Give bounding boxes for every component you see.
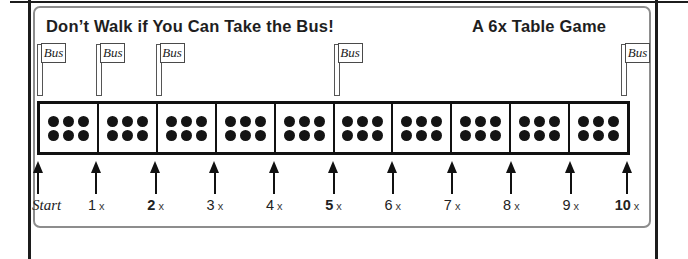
up-arrow-icon [209, 161, 219, 194]
up-arrow-icon [565, 161, 575, 194]
six-dot-array [48, 116, 89, 141]
dot [431, 116, 442, 127]
arrow-head [447, 161, 457, 173]
track-cell [335, 104, 394, 152]
bus-flag-label: Bus [338, 43, 363, 63]
dot [475, 116, 486, 127]
dot [608, 130, 619, 141]
page-border-left [28, 0, 31, 259]
page-border-top [10, 1, 688, 3]
arrow-shaft [626, 173, 628, 194]
up-arrow-icon [33, 161, 43, 194]
arrow-head [328, 161, 338, 173]
arrow-head [565, 161, 575, 173]
dot [490, 130, 501, 141]
stop-label: 9x [562, 197, 579, 213]
track-cell [393, 104, 452, 152]
arrow-shaft [392, 173, 394, 194]
stop-label: Start [32, 197, 64, 214]
dot [240, 116, 251, 127]
dot [460, 116, 471, 127]
dot [519, 116, 530, 127]
track-cell [570, 104, 627, 152]
arrow-shaft [273, 173, 275, 194]
dot [314, 130, 325, 141]
six-dot-array [578, 116, 619, 141]
dot [255, 130, 266, 141]
dot [372, 116, 383, 127]
dot [549, 130, 560, 141]
six-dot-array [107, 116, 148, 141]
dot [299, 116, 310, 127]
dot [401, 130, 412, 141]
track-cell [217, 104, 276, 152]
dot [534, 116, 545, 127]
stop-label: 10x [615, 197, 640, 213]
bus-flag-label: Bus [625, 43, 650, 63]
arrow-head [150, 161, 160, 173]
dot [107, 130, 118, 141]
dot [372, 130, 383, 141]
game-subtitle: A 6x Table Game [472, 17, 606, 36]
stop-label: 6x [385, 197, 402, 213]
dot [137, 116, 148, 127]
arrow-head [91, 161, 101, 173]
dot [196, 116, 207, 127]
dot [63, 116, 74, 127]
dot [401, 116, 412, 127]
dot [475, 130, 486, 141]
dot [357, 116, 368, 127]
dot [240, 130, 251, 141]
arrow-head [33, 161, 43, 173]
dot [225, 130, 236, 141]
up-arrow-icon [387, 161, 397, 194]
six-dot-array [166, 116, 207, 141]
stop-label: 2x [147, 197, 164, 213]
arrow-head [622, 161, 632, 173]
stop-label: 8x [503, 197, 520, 213]
dot [578, 130, 589, 141]
dot [534, 130, 545, 141]
dot [196, 130, 207, 141]
arrow-head [209, 161, 219, 173]
arrow-shaft [333, 173, 335, 194]
dot [107, 116, 118, 127]
stop-label: 1x [88, 197, 105, 213]
up-arrow-icon [622, 161, 632, 194]
stop-label: 5x [325, 197, 342, 213]
arrow-shaft [214, 173, 216, 194]
dot [255, 116, 266, 127]
up-arrow-icon [506, 161, 516, 194]
up-arrow-icon [150, 161, 160, 194]
track-cell [99, 104, 158, 152]
dot [78, 116, 89, 127]
arrow-shaft [95, 173, 97, 194]
arrow-head [387, 161, 397, 173]
dot [416, 116, 427, 127]
dot [181, 130, 192, 141]
dot [519, 130, 530, 141]
up-arrow-icon [269, 161, 279, 194]
dot [299, 130, 310, 141]
dot [48, 130, 59, 141]
arrow-head [269, 161, 279, 173]
up-arrow-icon [447, 161, 457, 194]
dot [578, 116, 589, 127]
dot [490, 116, 501, 127]
dot [314, 116, 325, 127]
dot [137, 130, 148, 141]
arrow-head [506, 161, 516, 173]
arrow-shaft [451, 173, 453, 194]
dot [284, 116, 295, 127]
track-cell [40, 104, 99, 152]
up-arrow-icon [328, 161, 338, 194]
dot [593, 130, 604, 141]
page-border-right [655, 0, 658, 259]
stop-label: 7x [444, 197, 461, 213]
game-title: Don’t Walk if You Can Take the Bus! [46, 17, 334, 36]
worksheet-page: { "header": { "title_left": "Don’t Walk … [0, 0, 688, 259]
six-dot-array [519, 116, 560, 141]
dot [122, 130, 133, 141]
up-arrow-icon [91, 161, 101, 194]
dot [166, 130, 177, 141]
